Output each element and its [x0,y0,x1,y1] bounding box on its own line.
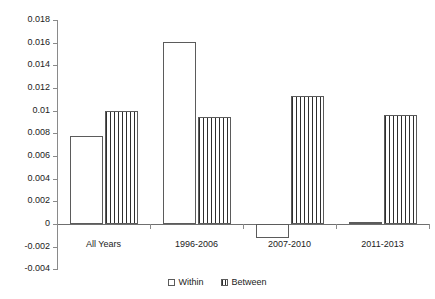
x-axis-tick [150,224,151,229]
y-axis-labels: 0.0180.0160.0140.0120.010.0080.0060.0040… [0,0,50,299]
y-axis-tick-label: -0.004 [4,264,50,273]
bar-within-0 [70,136,103,224]
bar-between-2 [291,96,324,224]
y-axis-tick [53,224,58,225]
bar-between-1 [198,117,231,224]
bar-between-0 [105,111,138,224]
bar-within-1 [163,42,196,224]
bar-within-2 [256,224,289,238]
legend-swatch-within-icon [168,279,175,286]
y-axis-tick [53,43,58,44]
y-axis-tick [53,179,58,180]
x-axis-category-label: 1996-2006 [150,239,243,249]
y-axis-tick-label: 0.01 [4,106,50,115]
x-axis-tick [243,224,244,229]
y-axis-tick-label: 0.004 [4,174,50,183]
y-axis-tick-label: 0.008 [4,128,50,137]
x-axis-tick [429,224,430,229]
x-axis-tick [336,224,337,229]
y-axis-tick-label: 0.006 [4,151,50,160]
y-axis-tick [53,20,58,21]
y-axis-tick-label: 0.018 [4,15,50,24]
legend-swatch-between-icon [221,279,228,286]
y-axis-tick-label: -0.002 [4,242,50,251]
y-axis-tick [53,133,58,134]
plot-area [57,20,429,269]
y-axis-tick [53,156,58,157]
y-axis-tick [53,201,58,202]
chart-legend: Within Between [0,278,435,287]
y-axis-tick-label: 0.016 [4,38,50,47]
legend-item-between[interactable]: Between [221,278,266,287]
legend-item-within[interactable]: Within [168,278,203,287]
y-axis-tick-label: 0.012 [4,83,50,92]
legend-label-between: Between [231,278,266,287]
y-axis-tick [53,88,58,89]
legend-label-within: Within [178,278,203,287]
y-axis-tick [53,111,58,112]
y-axis-tick-label: 0.002 [4,196,50,205]
bar-between-3 [384,115,417,224]
y-axis-tick-label: 0 [4,219,50,228]
bar-within-3 [349,222,382,224]
y-axis-tick [53,65,58,66]
bar-chart: 0.0180.0160.0140.0120.010.0080.0060.0040… [0,0,435,299]
x-axis-category-label: All Years [57,239,150,249]
x-axis-category-label: 2007-2010 [243,239,336,249]
y-axis-tick-label: 0.014 [4,60,50,69]
x-axis-category-label: 2011-2013 [336,239,429,249]
y-axis-tick [53,269,58,270]
